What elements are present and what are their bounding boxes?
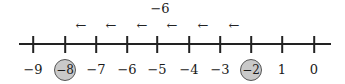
tick-label: −4 [179,62,198,78]
tick-mark [156,36,158,53]
circled-tick-label: −2 [240,59,262,81]
tick-mark [126,36,128,53]
number-line-axis [19,43,331,45]
jump-amount-label: −6 [150,2,169,16]
tick-mark [188,36,190,53]
tick-label: −7 [86,62,105,78]
left-arrow-icon: ← [137,19,148,33]
tick-mark [281,36,283,53]
tick-mark [95,36,97,53]
tick-label: −6 [117,62,136,78]
left-arrow-icon: ← [76,19,87,33]
left-arrow-icon: ← [198,19,209,33]
tick-label: −5 [147,62,166,78]
tick-mark [64,36,66,53]
left-arrow-icon: ← [167,19,178,33]
tick-mark [313,36,315,53]
tick-label: −9 [23,62,42,78]
tick-label: 1 [278,62,286,78]
tick-mark [250,36,252,53]
tick-mark [32,36,34,53]
left-arrow-icon: ← [106,19,117,33]
tick-mark [219,36,221,53]
number-line-diagram: −6 ←←←←←← −9−8−7−6−5−4−3−210 [0,0,345,84]
left-arrow-icon: ← [229,19,240,33]
tick-label: 0 [310,62,318,78]
circled-tick-label: −8 [54,59,76,81]
tick-label: −3 [210,62,229,78]
